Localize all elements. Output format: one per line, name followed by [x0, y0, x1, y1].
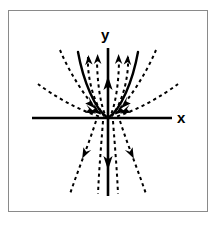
- parabola-right-arm: [108, 52, 138, 118]
- flow-arrow-inner-left-up: [94, 54, 102, 64]
- dashed-curve-lower-right-inner: [113, 121, 118, 194]
- flow-arrow-inner-right-up: [115, 54, 122, 64]
- figure-root: y x: [0, 0, 218, 226]
- parabola-left-arm: [78, 52, 108, 118]
- dashed-curve-lower-left-inner: [98, 121, 103, 194]
- x-axis-label: x: [177, 110, 185, 125]
- y-axis-label: y: [101, 27, 109, 42]
